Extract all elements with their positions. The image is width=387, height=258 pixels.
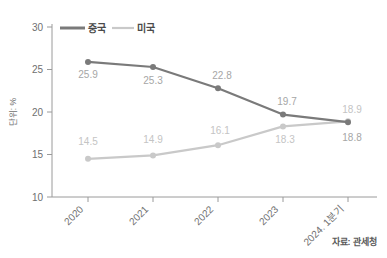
- data-label-usa-2022: 16.1: [210, 125, 230, 136]
- line-chart: 30 25 20 15 10 단위: % 2020 2021 2022 2023…: [0, 0, 387, 258]
- x-tick-label-2023: 2023: [257, 203, 281, 227]
- data-point-usa: [215, 142, 221, 148]
- legend: 중국 미국: [60, 22, 155, 34]
- data-label-china-2021: 25.3: [143, 75, 163, 86]
- data-point-usa: [85, 156, 91, 162]
- data-point-usa: [280, 123, 286, 129]
- y-tick-label-30: 30: [32, 22, 44, 33]
- data-label-china-2024q1: 18.8: [342, 132, 362, 143]
- y-tick-label-20: 20: [32, 107, 44, 118]
- x-tick-label-2020: 2020: [62, 203, 86, 227]
- data-point-china: [345, 119, 351, 125]
- data-label-usa-2020: 14.5: [78, 136, 98, 147]
- legend-label-usa: 미국: [137, 22, 155, 34]
- data-label-usa-2023: 18.3: [275, 134, 295, 145]
- data-label-usa-2021: 14.9: [143, 134, 163, 145]
- y-tick-label-25: 25: [32, 64, 44, 75]
- data-point-china: [215, 85, 221, 91]
- data-point-china: [280, 112, 286, 118]
- data-point-china: [85, 59, 91, 65]
- data-label-china-2022: 22.8: [212, 70, 232, 81]
- source-note: 자료: 관세청: [332, 236, 378, 247]
- data-label-china-2020: 25.9: [78, 69, 98, 80]
- data-label-usa-2024q1: 18.9: [342, 104, 362, 115]
- data-label-china-2023: 19.7: [277, 96, 297, 107]
- x-tick-label-2021: 2021: [127, 203, 151, 227]
- legend-label-china: 중국: [88, 23, 106, 34]
- data-point-usa: [150, 152, 156, 158]
- y-tick-label-15: 15: [32, 149, 44, 160]
- data-point-china: [150, 64, 156, 70]
- y-tick-label-10: 10: [32, 192, 44, 203]
- chart-container: 30 25 20 15 10 단위: % 2020 2021 2022 2023…: [0, 0, 387, 258]
- y-axis-title: 단위: %: [8, 97, 18, 126]
- x-tick-label-2022: 2022: [192, 203, 216, 227]
